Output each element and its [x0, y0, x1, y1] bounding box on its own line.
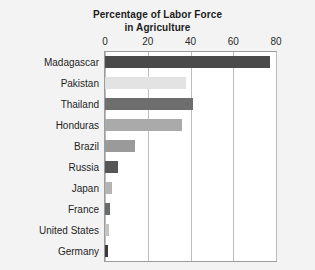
x-tick-label-40: 40	[176, 36, 206, 47]
chart-title-line-1: Percentage of Labor Force	[0, 8, 315, 21]
bar-row: France	[0, 199, 315, 220]
category-label-thailand: Thailand	[61, 98, 99, 109]
category-label-pakistan: Pakistan	[61, 77, 99, 88]
bar-row: Madagascar	[0, 51, 315, 72]
bar-russia	[105, 161, 118, 173]
category-label-germany: Germany	[58, 246, 99, 257]
bar-row: Japan	[0, 178, 315, 199]
bar-row: Pakistan	[0, 72, 315, 93]
bar-row: Brazil	[0, 135, 315, 156]
bar-france	[105, 203, 110, 215]
category-label-brazil: Brazil	[74, 140, 99, 151]
x-tick-label-20: 20	[133, 36, 163, 47]
bar-row: Germany	[0, 241, 315, 262]
bar-germany	[105, 245, 108, 257]
x-axis-tick-labels: 020406080	[0, 36, 315, 50]
chart-title: Percentage of Labor Force in Agriculture	[0, 8, 315, 34]
bar-brazil	[105, 140, 135, 152]
category-label-madagascar: Madagascar	[44, 56, 99, 67]
bar-chart-figure: Percentage of Labor Force in Agriculture…	[0, 0, 315, 270]
x-tick-label-80: 80	[261, 36, 291, 47]
bar-united-states	[105, 224, 109, 236]
bar-madagascar	[105, 56, 270, 68]
bar-row: United States	[0, 220, 315, 241]
bar-row: Honduras	[0, 114, 315, 135]
category-label-united-states: United States	[39, 225, 99, 236]
x-tick-label-0: 0	[90, 36, 120, 47]
bar-rows: MadagascarPakistanThailandHondurasBrazil…	[0, 51, 315, 262]
category-label-honduras: Honduras	[56, 119, 99, 130]
bar-honduras	[105, 119, 182, 131]
category-label-russia: Russia	[68, 162, 99, 173]
chart-title-line-2: in Agriculture	[0, 21, 315, 34]
bar-thailand	[105, 98, 193, 110]
bar-row: Russia	[0, 156, 315, 177]
bar-japan	[105, 182, 112, 194]
bar-row: Thailand	[0, 93, 315, 114]
category-label-japan: Japan	[72, 183, 99, 194]
x-tick-label-60: 60	[218, 36, 248, 47]
category-label-france: France	[68, 204, 99, 215]
bar-pakistan	[105, 77, 186, 89]
